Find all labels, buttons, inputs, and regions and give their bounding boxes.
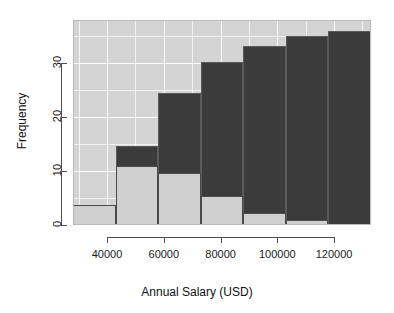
bar-dark (328, 31, 371, 225)
y-axis-tick-label: 0 (51, 204, 63, 244)
bar-light (243, 213, 286, 225)
y-axis-title: Frequency (15, 51, 29, 191)
bar-light (286, 220, 329, 225)
bar-light (116, 166, 159, 225)
bar-light (73, 205, 116, 226)
x-axis-tick-label: 100000 (259, 248, 296, 260)
bar-light (201, 196, 244, 225)
x-axis-tick-label: 120000 (316, 248, 353, 260)
y-axis-line (61, 63, 62, 225)
x-axis-tick-label: 80000 (205, 248, 236, 260)
x-axis-tick-label: 40000 (92, 248, 123, 260)
x-axis-tick (107, 237, 108, 243)
x-axis-tick (277, 237, 278, 243)
y-axis-tick-label: 30 (51, 42, 63, 82)
x-axis-tick-label: 60000 (149, 248, 180, 260)
y-axis-tick-label: 10 (51, 150, 63, 190)
y-axis-tick-label: 20 (51, 96, 63, 136)
x-axis-tick (334, 237, 335, 243)
x-axis-tick (221, 237, 222, 243)
histogram-figure: 4000060000800001000001200000102030 Annua… (0, 0, 394, 313)
bar-dark (243, 46, 286, 225)
x-axis-tick (164, 237, 165, 243)
x-axis-title: Annual Salary (USD) (0, 285, 394, 299)
gridline-vertical-minor (79, 20, 80, 225)
plot-panel (73, 20, 371, 225)
bar-light (158, 173, 201, 225)
bar-dark (286, 36, 329, 225)
gridline-vertical (107, 20, 108, 225)
